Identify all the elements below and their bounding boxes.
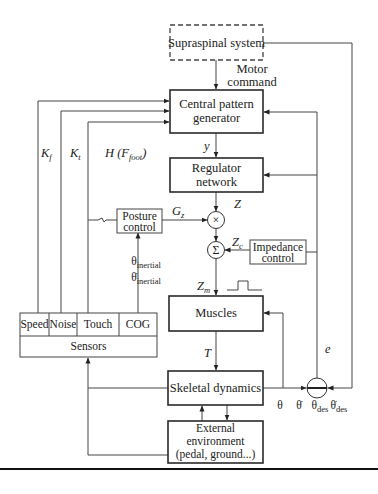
comparator-node <box>307 378 327 398</box>
multiply-node: × <box>208 212 225 229</box>
multiply-icon: × <box>213 213 220 227</box>
sum-node: Σ <box>208 242 225 259</box>
regulator-label-2: network <box>196 175 238 189</box>
block-external: External environment (pedal, ground...) <box>168 421 263 463</box>
muscles-label: Muscles <box>195 306 237 320</box>
sensor-cog: COG <box>126 318 150 330</box>
signal-y: y <box>202 139 210 153</box>
svg-text:θ̇inertial: θ̇inertial <box>131 271 161 286</box>
cpg-label-1: Central pattern <box>179 97 254 111</box>
block-muscles: Muscles <box>169 296 263 331</box>
block-impedance: Impedance control <box>250 240 306 264</box>
signal-theta: θ <box>277 399 283 411</box>
svg-text:Gz: Gz <box>172 204 185 220</box>
svg-text:θdes: θdes <box>312 399 329 414</box>
block-posture: Posture control <box>117 209 162 233</box>
sigma-icon: Σ <box>213 243 220 257</box>
signal-z: Z <box>234 197 242 211</box>
arrow-theta-muscles <box>264 313 283 388</box>
external-label-3: (pedal, ground...) <box>176 448 256 461</box>
sensor-touch: Touch <box>84 318 113 330</box>
sensor-noise: Noise <box>50 318 77 330</box>
signal-e: e <box>325 342 331 356</box>
regulator-label-1: Regulator <box>192 161 242 175</box>
arrow-external-sensors <box>88 358 168 455</box>
svg-text:Kf: Kf <box>40 146 53 162</box>
block-regulator: Regulator network <box>170 158 263 192</box>
block-cpg: Central pattern generator <box>170 90 263 133</box>
impedance-label-2: control <box>262 252 295 264</box>
svg-text:Zc: Zc <box>232 235 243 251</box>
svg-text:Kt: Kt <box>69 146 81 162</box>
cpg-label-2: generator <box>193 111 241 125</box>
signal-t: T <box>204 346 212 360</box>
svg-text:θ̇des: θ̇des <box>331 399 348 414</box>
arrow-desired-trajectory <box>263 43 352 388</box>
sensor-speed: Speed <box>20 318 48 331</box>
external-label-1: External <box>196 422 235 434</box>
svg-text:H (Ffoot): H (Ffoot) <box>104 146 146 162</box>
svg-text:Zm: Zm <box>197 279 210 295</box>
block-supraspinal: Supraspinal system <box>168 25 265 60</box>
switch-icon <box>98 218 117 222</box>
external-label-2: environment <box>186 435 245 447</box>
control-block-diagram: Supraspinal system Central pattern gener… <box>0 0 378 494</box>
block-skeletal: Skeletal dynamics <box>168 371 263 405</box>
svg-text:θinertial: θinertial <box>131 255 161 270</box>
pulse-icon <box>227 281 262 290</box>
posture-label-2: control <box>123 221 156 233</box>
motor-command-label-1: Motor <box>236 62 268 76</box>
sensors-label: Sensors <box>71 340 107 352</box>
supraspinal-label: Supraspinal system <box>168 36 265 50</box>
block-sensors: Speed Noise Touch COG Sensors <box>20 313 157 357</box>
motor-command-label-2: command <box>227 75 277 89</box>
skeletal-label: Skeletal dynamics <box>170 381 261 395</box>
signal-theta-dot: θ̇ <box>296 399 303 411</box>
caption-divider <box>0 468 378 470</box>
signal-gz: G <box>172 204 181 218</box>
signal-hfoot: H (F <box>104 146 129 160</box>
